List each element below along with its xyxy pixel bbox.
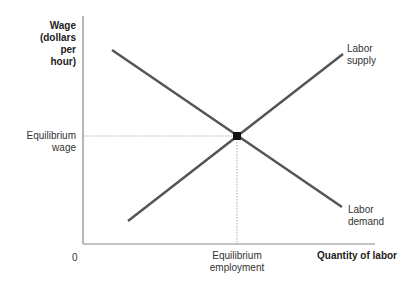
y-axis-label: Wage(dollarsperhour)	[40, 20, 76, 68]
origin-label: 0	[72, 252, 78, 264]
equilibrium-point	[233, 132, 241, 140]
labor-demand-label: Labordemand	[348, 204, 384, 228]
labor-supply-label: Laborsupply	[347, 43, 376, 67]
eq-employment-label: Equilibriumemployment	[207, 250, 267, 274]
labor-demand-curve	[112, 50, 342, 207]
x-axis-label: Quantity of labor	[317, 250, 397, 262]
eq-wage-label: Equilibriumwage	[27, 130, 76, 154]
